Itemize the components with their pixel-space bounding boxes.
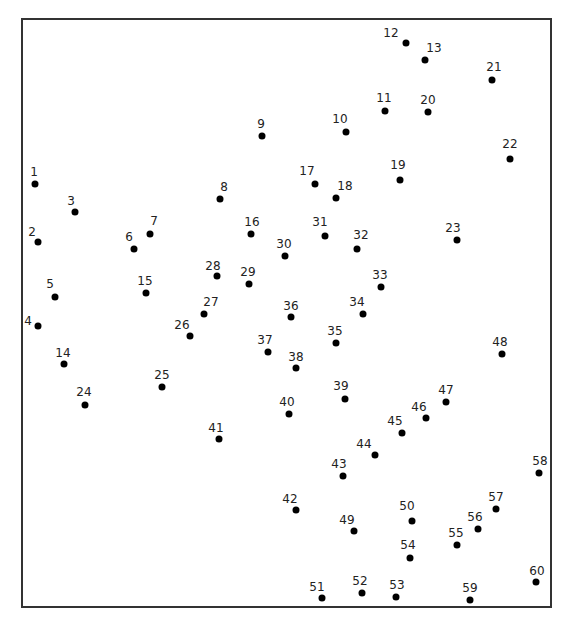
dot-point bbox=[454, 237, 461, 244]
dot-point bbox=[499, 351, 506, 358]
dot-number-label: 17 bbox=[299, 165, 314, 177]
dot-number-label: 8 bbox=[220, 181, 228, 193]
dot-number-label: 36 bbox=[283, 300, 298, 312]
dot-point bbox=[159, 384, 166, 391]
dot-number-label: 2 bbox=[28, 226, 36, 238]
dot-number-label: 28 bbox=[205, 260, 220, 272]
dot-point bbox=[72, 209, 79, 216]
dot-point bbox=[333, 195, 340, 202]
dot-number-label: 42 bbox=[282, 493, 297, 505]
dot-number-label: 9 bbox=[257, 118, 265, 130]
dot-number-label: 24 bbox=[76, 386, 91, 398]
dot-point bbox=[32, 181, 39, 188]
dot-number-label: 57 bbox=[488, 491, 503, 503]
dot-point bbox=[340, 473, 347, 480]
dot-point bbox=[187, 333, 194, 340]
dot-point bbox=[286, 411, 293, 418]
dot-point bbox=[454, 542, 461, 549]
dot-number-label: 47 bbox=[438, 384, 453, 396]
dot-point bbox=[425, 109, 432, 116]
dot-number-label: 11 bbox=[376, 92, 391, 104]
dot-point bbox=[507, 156, 514, 163]
dot-number-label: 20 bbox=[420, 94, 435, 106]
dot-point bbox=[351, 528, 358, 535]
dot-number-label: 25 bbox=[154, 369, 169, 381]
dot-point bbox=[382, 108, 389, 115]
dot-point bbox=[319, 595, 326, 602]
dot-point bbox=[312, 181, 319, 188]
dot-number-label: 39 bbox=[333, 380, 348, 392]
dot-point bbox=[354, 246, 361, 253]
dot-number-label: 19 bbox=[390, 159, 405, 171]
dot-point bbox=[288, 314, 295, 321]
dot-number-label: 13 bbox=[426, 42, 441, 54]
dot-point bbox=[372, 452, 379, 459]
dot-number-label: 41 bbox=[208, 422, 223, 434]
dot-number-label: 60 bbox=[529, 565, 544, 577]
dot-point bbox=[259, 133, 266, 140]
dot-number-label: 38 bbox=[288, 351, 303, 363]
dot-point bbox=[61, 361, 68, 368]
dot-point bbox=[131, 246, 138, 253]
dot-point bbox=[467, 597, 474, 604]
dot-number-label: 37 bbox=[257, 334, 272, 346]
dot-point bbox=[293, 365, 300, 372]
dot-number-label: 49 bbox=[339, 514, 354, 526]
dot-point bbox=[399, 430, 406, 437]
dot-point bbox=[536, 470, 543, 477]
dot-number-label: 52 bbox=[352, 575, 367, 587]
dot-number-label: 35 bbox=[327, 325, 342, 337]
dot-number-label: 32 bbox=[353, 229, 368, 241]
dot-number-label: 22 bbox=[502, 138, 517, 150]
dot-number-label: 16 bbox=[244, 216, 259, 228]
dot-number-label: 3 bbox=[67, 195, 75, 207]
dot-number-label: 56 bbox=[467, 511, 482, 523]
dot-point bbox=[52, 294, 59, 301]
dot-number-label: 48 bbox=[492, 336, 507, 348]
dot-number-label: 10 bbox=[332, 113, 347, 125]
dot-point bbox=[378, 284, 385, 291]
dot-number-label: 23 bbox=[445, 222, 460, 234]
dot-point bbox=[489, 77, 496, 84]
dot-number-label: 5 bbox=[46, 278, 54, 290]
dot-number-label: 15 bbox=[137, 275, 152, 287]
dot-point bbox=[82, 402, 89, 409]
dot-point bbox=[407, 555, 414, 562]
dot-number-label: 44 bbox=[356, 438, 371, 450]
dot-number-label: 55 bbox=[448, 527, 463, 539]
dot-number-label: 34 bbox=[349, 296, 364, 308]
dot-number-label: 51 bbox=[309, 581, 324, 593]
dot-point bbox=[214, 273, 221, 280]
dot-point bbox=[422, 57, 429, 64]
dot-number-label: 18 bbox=[337, 180, 352, 192]
dot-number-label: 45 bbox=[387, 415, 402, 427]
dot-point bbox=[343, 129, 350, 136]
dot-number-label: 53 bbox=[389, 579, 404, 591]
dot-point bbox=[248, 231, 255, 238]
dot-point bbox=[35, 239, 42, 246]
dot-point bbox=[35, 323, 42, 330]
dot-number-label: 58 bbox=[532, 455, 547, 467]
dot-point bbox=[246, 281, 253, 288]
dot-point bbox=[201, 311, 208, 318]
dot-number-label: 29 bbox=[240, 266, 255, 278]
dot-number-label: 4 bbox=[24, 315, 32, 327]
dot-number-label: 21 bbox=[486, 61, 501, 73]
dot-point bbox=[443, 399, 450, 406]
dot-number-label: 50 bbox=[399, 500, 414, 512]
dot-point bbox=[147, 231, 154, 238]
dot-number-label: 46 bbox=[411, 401, 426, 413]
dot-number-label: 54 bbox=[400, 539, 415, 551]
dot-point bbox=[293, 507, 300, 514]
dot-number-label: 12 bbox=[383, 27, 398, 39]
dot-number-label: 27 bbox=[203, 296, 218, 308]
dot-point bbox=[397, 177, 404, 184]
dot-point bbox=[359, 590, 366, 597]
dot-number-label: 14 bbox=[55, 347, 70, 359]
dot-point bbox=[475, 526, 482, 533]
dot-number-label: 26 bbox=[174, 319, 189, 331]
dot-point bbox=[322, 233, 329, 240]
dot-number-label: 6 bbox=[125, 231, 133, 243]
dot-number-label: 43 bbox=[331, 458, 346, 470]
dot-point bbox=[423, 415, 430, 422]
